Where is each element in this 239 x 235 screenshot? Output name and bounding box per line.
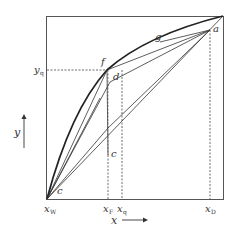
label-c-bottom: c [57, 185, 63, 196]
label-xq-sub: q [123, 208, 127, 216]
label-f: f [100, 56, 107, 67]
y-arrowhead-icon [22, 114, 27, 119]
diagonal-line [47, 16, 223, 199]
x-axis-label: x [111, 214, 118, 227]
label-g: g [155, 31, 161, 42]
q-line [107, 70, 108, 155]
label-c-top: c [111, 148, 117, 159]
label-yq: y [33, 64, 40, 75]
operating-line-a-g [160, 30, 210, 42]
label-yq-sub: q [40, 69, 44, 77]
y-axis-label: y [13, 126, 21, 139]
stripping-line-f [47, 70, 107, 199]
operating-line-a-c [108, 30, 210, 128]
x-arrowhead-icon [143, 218, 148, 223]
stripping-line-min [47, 98, 100, 199]
label-xd-sub: D [211, 208, 216, 215]
label-xw-sub: W [50, 208, 57, 215]
mccabe-thiele-diagram: a g f d c c y q x W x F x q x D x y [0, 0, 239, 235]
label-d: d [113, 71, 119, 82]
label-a: a [213, 23, 219, 34]
